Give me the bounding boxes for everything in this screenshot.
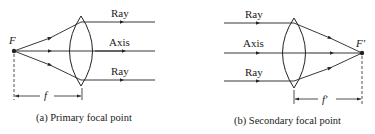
distance-label-b: f' xyxy=(322,93,328,105)
ray-bottom-label-a: Ray xyxy=(111,65,129,77)
figure-a-primary-focal-point: F Ray Axis Ray f (a) Primary focal point xyxy=(8,7,155,124)
axis-label-b: Axis xyxy=(243,37,264,49)
caption-a: (a) Primary focal point xyxy=(36,112,132,124)
figure-b-secondary-focal-point: F' Ray Axis Ray f' (b) Secondary focal p… xyxy=(224,8,366,127)
distance-label-a: f xyxy=(44,89,49,101)
focal-point-dot-b xyxy=(360,51,364,55)
caption-b: (b) Secondary focal point xyxy=(234,115,341,127)
ray-top-label-a: Ray xyxy=(111,7,129,19)
focal-label-a: F xyxy=(8,34,16,46)
focal-label-b: F' xyxy=(355,37,366,49)
axis-label-a: Axis xyxy=(109,36,130,48)
ray-top-label-b: Ray xyxy=(245,8,263,20)
ray-bottom-label-b: Ray xyxy=(245,66,263,78)
focal-points-diagram: F Ray Axis Ray f (a) Primary focal point xyxy=(0,0,375,134)
